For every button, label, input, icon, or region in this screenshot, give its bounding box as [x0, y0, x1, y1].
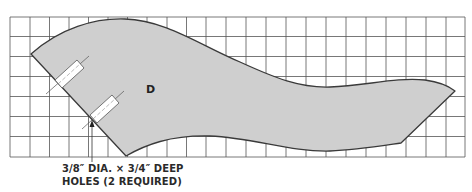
callout-leader [90, 120, 95, 162]
part-d-shape [31, 19, 455, 156]
callout-line-2: HOLES (2 REQUIRED) [62, 175, 184, 188]
hole-callout: 3/8″ DIA. × 3/4″ DEEP HOLES (2 REQUIRED) [62, 162, 184, 188]
part-label: D [146, 83, 155, 96]
pattern-diagram: D 3/8″ DIA. × 3/4″ DEEP HOLES (2 REQUIRE… [0, 0, 472, 192]
callout-line-1: 3/8″ DIA. × 3/4″ DEEP [62, 162, 184, 175]
